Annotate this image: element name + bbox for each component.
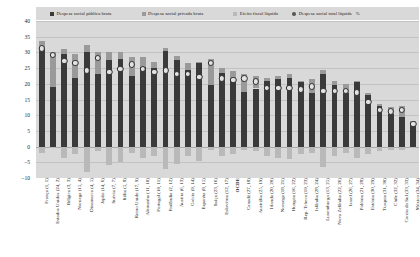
bar-segment-fiscal-effect	[84, 147, 90, 172]
x-axis-tick-label: México (34, 34)	[415, 178, 420, 210]
x-axis-tick-label: França (1, 1)	[44, 178, 49, 204]
bar-group	[151, 21, 157, 178]
gridline	[36, 37, 419, 38]
bar-segment-fiscal-effect	[253, 147, 259, 152]
bar-segment-fiscal-effect	[298, 147, 304, 155]
bar-segment-fiscal-effect	[332, 147, 338, 156]
bar-group	[388, 21, 394, 178]
y-axis-tick-label: 40	[24, 18, 30, 24]
bar-segment-fiscal-effect	[174, 147, 180, 164]
y-axis-tick-label: 35	[24, 34, 30, 40]
x-axis-tick-label: Bélgica (3, 3)	[66, 178, 71, 205]
bar-group	[309, 21, 315, 178]
legend-item-despesa-social-total-liquida: Despesa social total líquida	[292, 11, 351, 16]
legend-item-efeito-fiscal-liquido: Efeito fiscal líquido	[233, 11, 278, 16]
legend-item-despesa-social-privada-bruta: Despesa social privada bruta	[142, 11, 204, 16]
x-axis-tick-label: Noruega (15, 4)	[77, 178, 82, 210]
bar-segment-private	[275, 76, 281, 79]
legend-unit-label: %	[356, 11, 360, 16]
bar-segment-private	[320, 70, 326, 75]
bar-group	[410, 21, 416, 178]
bar-segment-private	[287, 74, 293, 77]
bar-segment-private	[151, 62, 157, 68]
bar-segment-fiscal-effect	[241, 147, 247, 150]
x-axis-tick-label: Canadá (27, 18)	[246, 178, 251, 210]
bar-segment-public	[253, 89, 259, 147]
x-axis-tick-label: Portugal (10, 11)	[156, 178, 161, 212]
bar-segment-public	[39, 49, 45, 146]
bar-group	[106, 21, 112, 178]
legend-swatch-icon	[142, 12, 146, 16]
x-axis-tick-label: Suíça (23, 16)	[213, 178, 218, 206]
bar-segment-public	[208, 85, 214, 146]
x-axis-tick-label: Grécia (9, 14)	[190, 178, 195, 206]
bar-segment-fiscal-effect	[343, 147, 349, 153]
legend-swatch-icon	[50, 12, 54, 16]
bar-segment-fiscal-effect	[163, 147, 169, 169]
bar-segment-fiscal-effect	[106, 147, 112, 166]
bar-segment-fiscal-effect	[50, 147, 56, 149]
x-axis-tick-label: Polónia (21, 28)	[359, 178, 364, 210]
bar-segment-public	[129, 76, 135, 147]
x-axis-tick-label: Irlanda (20, 20)	[269, 178, 274, 209]
bar-segment-private	[377, 104, 383, 106]
bar-group	[365, 21, 371, 178]
bar-segment-fiscal-effect	[264, 147, 270, 156]
y-axis-tick-label: 15	[24, 97, 30, 103]
x-axis-tick-label: Estónia (30, 29)	[370, 178, 375, 210]
gridline	[36, 52, 419, 53]
bar-group	[95, 21, 101, 178]
bar-group	[140, 21, 146, 178]
bar-group	[320, 21, 326, 178]
bar-group	[129, 21, 135, 178]
bar-segment-private	[185, 63, 191, 69]
legend-swatch-icon	[292, 12, 296, 16]
bar-segment-public	[230, 79, 236, 147]
bar-segment-fiscal-effect	[140, 147, 146, 158]
y-axis-tick-label: 0	[27, 144, 30, 150]
bar-segment-fiscal-effect	[196, 147, 202, 161]
bar-segment-public	[61, 54, 67, 147]
bar-segment-fiscal-effect	[118, 147, 124, 163]
gridline	[36, 131, 419, 132]
bar-group	[118, 21, 124, 178]
x-axis-tick-label: Noruega (18, 21)	[280, 178, 285, 212]
bar-segment-private	[219, 68, 225, 73]
gridline	[36, 84, 419, 85]
x-axis-tick-label: Reino Unido (17, 9)	[134, 178, 139, 218]
bar-group	[253, 21, 259, 178]
gridline	[36, 21, 419, 22]
bar-segment-private	[118, 52, 124, 58]
bar-group	[219, 21, 225, 178]
bar-segment-fiscal-effect	[151, 147, 157, 156]
y-axis-tick-label: 20	[24, 81, 30, 87]
x-axis-tick-label: Alemanha (11, 10)	[145, 178, 150, 215]
bar-segment-fiscal-effect	[388, 147, 394, 150]
bar-segment-fiscal-effect	[275, 147, 281, 158]
bar-group	[264, 21, 270, 178]
y-axis-tick-label: 5	[27, 128, 30, 134]
y-axis-tick-label: –5	[24, 159, 30, 165]
x-axis-tick-label: Dinamarca (4, 5)	[89, 178, 94, 212]
bar-segment-fiscal-effect	[208, 147, 214, 150]
x-axis-tick-label: Finlândia (2, 12)	[168, 178, 173, 211]
bar-group	[185, 21, 191, 178]
x-axis-tick-label: Áustria (6, 13)	[179, 178, 184, 207]
bar-segment-public	[320, 74, 326, 146]
bar-group	[174, 21, 180, 178]
bar-group	[39, 21, 45, 178]
bar-group	[163, 21, 169, 178]
bar-segment-fiscal-effect	[39, 147, 45, 153]
bar-segment-fiscal-effect	[72, 147, 78, 155]
bar-segment-public	[50, 87, 56, 147]
x-axis-tick-label: Suécia (7, 7)	[111, 178, 116, 203]
x-axis-tick-label: Espanha (8, 15)	[201, 178, 206, 210]
x-axis-tick-label: OCDE	[235, 178, 240, 192]
bar-segment-private	[61, 49, 67, 54]
x-axis-tick-label: Islândia (28, 24)	[314, 178, 319, 211]
bar-segment-private	[298, 81, 304, 83]
bar-group	[241, 21, 247, 178]
gridline	[36, 147, 419, 148]
bar-segment-public	[343, 93, 349, 146]
bar-segment-public	[72, 78, 78, 147]
